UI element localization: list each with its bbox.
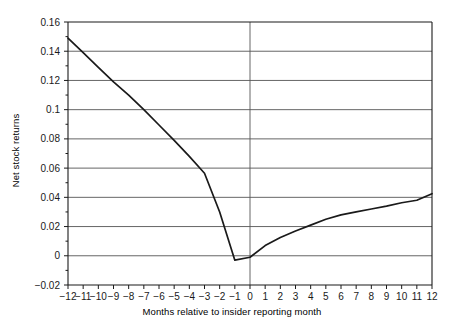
x-axis-title-text: Months relative to insider reporting mon…	[143, 306, 322, 317]
chart-figure: Net stock returns −0.0200.020.040.060.08…	[0, 0, 464, 334]
x-axis-tick-labels: −12−11−10−9−8−7−6−5−4−3−2−10123456789101…	[60, 291, 438, 302]
x-axis-tick-label: −6	[153, 291, 165, 302]
x-axis-tick-label: −10	[90, 291, 107, 302]
x-axis-tick-label: 7	[353, 291, 359, 302]
x-axis-tick-label: 10	[396, 291, 408, 302]
x-axis-tick-label: 6	[338, 291, 344, 302]
y-axis-tick-label: 0.14	[41, 46, 61, 57]
x-axis-tick-label: 11	[412, 291, 423, 302]
x-axis-tick-label: −2	[214, 291, 226, 302]
y-axis-tick-label: 0	[54, 250, 60, 261]
x-axis-tick-label: −5	[168, 291, 180, 302]
x-axis-tick-label: −7	[138, 291, 150, 302]
y-axis-tick-labels: −0.0200.020.040.060.080.10.120.140.16	[35, 17, 61, 291]
x-axis-tick-label: −1	[229, 291, 241, 302]
line-chart-plot: −0.0200.020.040.060.080.10.120.140.16 −1…	[0, 0, 464, 334]
y-axis-tick-label: 0.08	[41, 133, 61, 144]
x-axis-tick-label: 5	[323, 291, 329, 302]
x-axis-tick-label: 8	[369, 291, 375, 302]
x-axis-tick-label: 4	[308, 291, 314, 302]
x-axis-tick-label: −9	[108, 291, 120, 302]
x-axis-title: Months relative to insider reporting mon…	[0, 306, 464, 317]
y-axis-tick-label: 0.06	[41, 163, 61, 174]
y-axis-tick-label: 0.04	[41, 192, 61, 203]
y-axis-tick-label: 0.16	[41, 17, 61, 28]
x-axis-tick-label: 0	[247, 291, 253, 302]
x-axis-tick-label: 12	[426, 291, 438, 302]
y-axis-tick-label: 0.02	[41, 221, 61, 232]
x-axis-tick-label: 1	[262, 291, 268, 302]
x-axis-tick-label: −4	[184, 291, 196, 302]
x-axis-ticks	[68, 285, 432, 289]
x-axis-tick-label: 2	[278, 291, 284, 302]
x-axis-tick-label: −3	[199, 291, 211, 302]
y-axis-tick-label: 0.1	[46, 104, 60, 115]
y-axis-ticks	[64, 22, 68, 285]
x-axis-tick-label: 9	[384, 291, 390, 302]
x-axis-tick-label: −8	[123, 291, 135, 302]
y-axis-tick-label: −0.02	[35, 280, 61, 291]
y-axis-tick-label: 0.12	[41, 75, 61, 86]
x-axis-tick-label: 3	[293, 291, 299, 302]
